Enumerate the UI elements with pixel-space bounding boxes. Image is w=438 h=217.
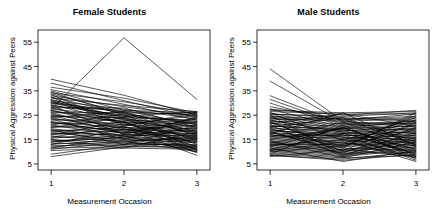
x-axis-label-male: Measurement Occasion (219, 197, 438, 206)
svg-text:35: 35 (242, 87, 251, 96)
svg-text:55: 55 (242, 38, 251, 47)
svg-text:2: 2 (122, 179, 127, 188)
svg-text:15: 15 (23, 136, 32, 145)
svg-text:45: 45 (23, 63, 32, 72)
svg-text:3: 3 (195, 179, 200, 188)
svg-text:25: 25 (242, 111, 251, 120)
panel-female-students: Female Students 51525354555123 Physical … (0, 0, 219, 217)
y-axis-label-male: Physical Aggression against Peers (227, 34, 236, 164)
figure-spaghetti-plots: Female Students 51525354555123 Physical … (0, 0, 438, 217)
plot-area-male: 51525354555123 (219, 0, 438, 217)
panel-male-students: Male Students 51525354555123 Physical Ag… (219, 0, 438, 217)
plot-area-female: 51525354555123 (0, 0, 219, 217)
svg-text:3: 3 (414, 179, 419, 188)
svg-text:35: 35 (23, 87, 32, 96)
svg-text:25: 25 (23, 111, 32, 120)
svg-text:1: 1 (268, 179, 273, 188)
svg-text:5: 5 (247, 160, 252, 169)
svg-text:2: 2 (341, 179, 346, 188)
svg-text:45: 45 (242, 63, 251, 72)
svg-text:5: 5 (28, 160, 33, 169)
svg-text:1: 1 (49, 179, 54, 188)
x-axis-label-female: Measurement Occasion (0, 197, 219, 206)
svg-text:55: 55 (23, 38, 32, 47)
y-axis-label-female: Physical Aggression against Peers (8, 34, 17, 164)
svg-text:15: 15 (242, 136, 251, 145)
